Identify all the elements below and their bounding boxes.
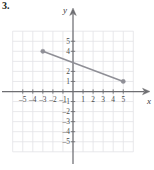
x-tick-label: 4 [111, 95, 115, 104]
x-tick-label: –3 [38, 95, 47, 104]
coordinate-plane: –5–4–3–2–1123455421–1–2–3–4–5 xy [0, 0, 154, 170]
y-tick-label: 5 [66, 37, 70, 46]
endpoint-dot [41, 49, 45, 53]
x-tick-label: 2 [91, 95, 95, 104]
y-tick-label: –4 [62, 127, 71, 136]
y-tick-label: 1 [66, 77, 70, 86]
x-tick-label: 3 [101, 95, 105, 104]
y-tick-label: –3 [62, 117, 71, 126]
endpoint-dot [121, 79, 125, 83]
y-tick-label: 2 [66, 67, 70, 76]
x-tick-label: 1 [81, 95, 85, 104]
y-tick-label: –5 [62, 137, 71, 146]
y-axis-label: y [62, 5, 67, 15]
graph-figure: 3. –5–4–3–2–1123455421–1–2–3–4–5 xy [0, 0, 154, 170]
y-tick-label: –2 [62, 107, 71, 116]
x-tick-label: –2 [48, 95, 57, 104]
x-tick-label: –5 [18, 95, 27, 104]
x-tick-label: –4 [28, 95, 37, 104]
x-axis-label: x [146, 96, 151, 106]
y-tick-label: 4 [66, 47, 70, 56]
axis-letters: xy [62, 5, 151, 106]
x-tick-label: 5 [121, 95, 125, 104]
y-tick-label: –1 [62, 97, 71, 106]
